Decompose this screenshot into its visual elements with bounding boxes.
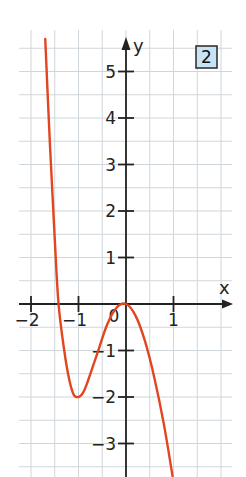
- problem-number-badge: 2: [196, 46, 217, 68]
- y-tick-label: 5: [105, 62, 116, 82]
- y-tick-label: 4: [105, 108, 116, 128]
- y-axis-label: y: [133, 35, 144, 56]
- x-axis-label: x: [219, 277, 230, 298]
- function-graph: −2−110−3−2−112345 x y 2: [0, 0, 246, 477]
- y-tick-label: 1: [105, 248, 116, 268]
- x-tick-label: −2: [14, 310, 39, 330]
- x-tick-label: −1: [62, 310, 87, 330]
- y-tick-label: 2: [105, 201, 116, 221]
- y-axis-arrow-icon: [122, 37, 131, 50]
- badge-label: 2: [201, 47, 212, 67]
- y-tick-label: −3: [91, 434, 116, 454]
- y-tick-label: 3: [105, 155, 116, 175]
- x-tick-label: 1: [168, 310, 179, 330]
- y-tick-label: −2: [91, 387, 116, 407]
- x-axis-arrow-icon: [222, 300, 233, 309]
